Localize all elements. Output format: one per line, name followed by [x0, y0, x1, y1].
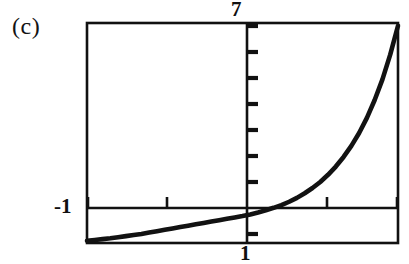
y-axis-ticks	[247, 26, 258, 234]
x-axis-ticks	[88, 197, 397, 208]
plot-frame	[87, 23, 398, 243]
